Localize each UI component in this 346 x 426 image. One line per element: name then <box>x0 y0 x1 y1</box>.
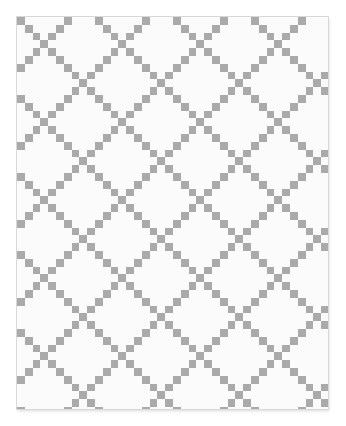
quilt-square <box>212 368 220 376</box>
quilt-square <box>134 134 142 142</box>
quilt-square <box>72 150 80 158</box>
quilt-square <box>313 235 321 243</box>
quilt-square <box>321 87 328 95</box>
quilt-square <box>173 220 181 228</box>
quilt-square <box>204 189 212 197</box>
quilt-square <box>290 25 298 33</box>
quilt-square <box>56 212 64 220</box>
quilt-square <box>189 48 197 56</box>
quilt-square <box>111 360 119 368</box>
quilt-square <box>298 142 306 150</box>
quilt-square <box>33 126 41 134</box>
quilt-square <box>204 126 212 134</box>
quilt-square <box>173 407 181 409</box>
quilt-square <box>157 313 165 321</box>
quilt-square <box>220 329 228 337</box>
quilt-square <box>157 79 165 87</box>
quilt-square <box>157 391 165 399</box>
quilt-square <box>111 267 119 275</box>
quilt-square <box>173 329 181 337</box>
quilt-square <box>181 181 189 189</box>
quilt-square <box>111 111 119 119</box>
quilt-square <box>142 64 150 72</box>
quilt-square <box>235 157 243 165</box>
quilt-square <box>220 17 228 25</box>
quilt-square <box>87 384 95 392</box>
quilt-square <box>150 87 158 95</box>
quilt-square <box>282 48 290 56</box>
quilt-square <box>87 321 95 329</box>
quilt-square <box>72 165 80 173</box>
quilt-square <box>17 142 25 150</box>
quilt-square <box>220 95 228 103</box>
quilt-square <box>165 306 173 314</box>
quilt-square <box>72 243 80 251</box>
quilt-square <box>17 64 25 72</box>
quilt-square <box>298 220 306 228</box>
quilt-square <box>33 111 41 119</box>
quilt-square <box>150 321 158 329</box>
quilt-square <box>298 95 306 103</box>
quilt-square <box>189 126 197 134</box>
quilt-square <box>79 235 87 243</box>
quilt-square <box>220 142 228 150</box>
quilt-square <box>95 95 103 103</box>
quilt-square <box>56 56 64 64</box>
quilt-square <box>142 142 150 150</box>
quilt-square <box>220 251 228 259</box>
quilt-square <box>103 181 111 189</box>
quilt-square <box>321 165 328 173</box>
quilt-square <box>298 173 306 181</box>
quilt-square <box>134 56 142 64</box>
quilt-square <box>228 150 236 158</box>
quilt-square <box>134 368 142 376</box>
quilt-square <box>25 134 33 142</box>
quilt-square <box>56 290 64 298</box>
quilt-square <box>103 368 111 376</box>
quilt-square <box>196 274 204 282</box>
quilt-square <box>72 87 80 95</box>
quilt-square <box>267 126 275 134</box>
quilt-square <box>150 150 158 158</box>
quilt-square <box>228 384 236 392</box>
quilt-square <box>126 189 134 197</box>
quilt-square <box>118 40 126 48</box>
quilt-square <box>290 181 298 189</box>
quilt-square <box>259 25 267 33</box>
quilt-square <box>235 313 243 321</box>
quilt-square <box>33 48 41 56</box>
quilt-square <box>243 72 251 80</box>
quilt-square <box>189 360 197 368</box>
quilt-square <box>103 290 111 298</box>
quilt-square <box>306 306 314 314</box>
quilt-square <box>259 103 267 111</box>
quilt-square <box>56 25 64 33</box>
quilt-square <box>243 321 251 329</box>
quilt-square <box>33 267 41 275</box>
quilt-square <box>212 56 220 64</box>
quilt-square <box>251 173 259 181</box>
quilt-square <box>48 345 56 353</box>
quilt-square <box>48 267 56 275</box>
quilt-square <box>142 95 150 103</box>
quilt-square <box>56 181 64 189</box>
quilt-square <box>17 329 25 337</box>
quilt-square <box>267 111 275 119</box>
quilt-square <box>33 360 41 368</box>
quilt-square <box>87 228 95 236</box>
quilt-square <box>306 243 314 251</box>
quilt-square <box>204 267 212 275</box>
quilt-square <box>212 259 220 267</box>
quilt-square <box>118 274 126 282</box>
quilt-square <box>243 243 251 251</box>
quilt-square <box>40 196 48 204</box>
quilt-square <box>64 95 72 103</box>
quilt-square <box>142 17 150 25</box>
quilt-square <box>25 259 33 267</box>
quilt-square <box>298 251 306 259</box>
quilt-square <box>228 72 236 80</box>
quilt-square <box>134 290 142 298</box>
quilt-square <box>79 313 87 321</box>
quilt-square <box>118 196 126 204</box>
quilt-square <box>40 352 48 360</box>
